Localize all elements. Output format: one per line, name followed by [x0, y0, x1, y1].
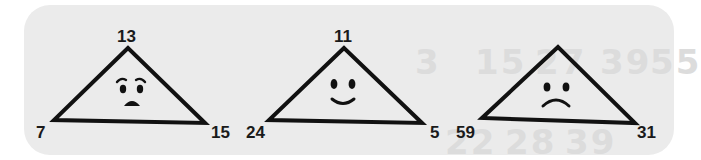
triangle-1-left-value: 7: [36, 123, 45, 143]
sad-face-icon: [543, 82, 569, 106]
triangle-2-left-value: 24: [246, 123, 265, 143]
triangle-happy: [269, 48, 422, 123]
triangle-sad: [482, 47, 635, 123]
triangle-worried: [54, 48, 205, 123]
triangle-3-right-value: 31: [637, 123, 656, 143]
worried-face-icon: [117, 79, 145, 106]
triangle-3-left-value: 59: [456, 123, 475, 143]
happy-face-icon: [331, 79, 356, 104]
triangle-2-right-value: 5: [430, 123, 439, 143]
triangle-1-top-value: 13: [117, 27, 136, 47]
triangle-1-right-value: 15: [211, 123, 230, 143]
triangle-2-top-value: 11: [334, 27, 352, 47]
